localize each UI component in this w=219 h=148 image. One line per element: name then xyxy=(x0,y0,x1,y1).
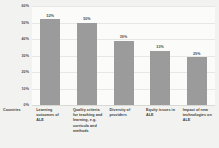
x-axis: Countries Learning outcomes of ALEQualit… xyxy=(0,108,219,148)
x-axis-category-label: Learning outcomes of ALE xyxy=(36,108,66,124)
x-axis-title: Countries xyxy=(3,108,33,113)
x-axis-category-label: Impact of new technologies on ALE xyxy=(183,108,213,124)
y-axis-tick-label: 20% xyxy=(0,70,29,74)
bar-chart: 52%50%39%33%29% 60%50%40%30%20%10%0% Cou… xyxy=(0,0,219,148)
bar-value-label: 33% xyxy=(144,45,176,49)
y-axis-tick-label: 0% xyxy=(0,103,29,107)
y-axis-tick-label: 10% xyxy=(0,87,29,91)
gridline xyxy=(32,6,215,7)
y-axis-tick-label: 60% xyxy=(0,4,29,8)
gridline xyxy=(32,105,215,106)
bar-value-label: 29% xyxy=(181,52,213,56)
bar xyxy=(114,41,134,105)
plot-area: 52%50%39%33%29% xyxy=(32,6,215,105)
bar xyxy=(40,19,60,105)
bar-value-label: 50% xyxy=(71,17,103,21)
y-axis-tick-label: 40% xyxy=(0,37,29,41)
y-axis-tick-label: 30% xyxy=(0,54,29,58)
bar xyxy=(150,51,170,105)
x-axis-category-label: Equity issues in ALE xyxy=(146,108,176,118)
bar xyxy=(77,23,97,106)
bar xyxy=(187,57,207,105)
x-axis-category-label: Diversity of providers xyxy=(110,108,140,118)
bar-value-label: 39% xyxy=(108,35,140,39)
y-axis-tick-label: 50% xyxy=(0,21,29,25)
x-axis-category-label: Quality criteria for teaching and learni… xyxy=(73,108,103,134)
bar-value-label: 52% xyxy=(34,14,66,18)
y-axis: 60%50%40%30%20%10%0% xyxy=(0,0,32,110)
